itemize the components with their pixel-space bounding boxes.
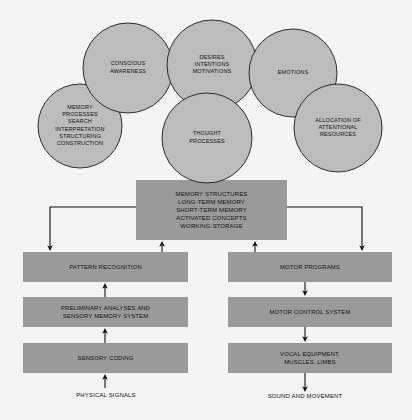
box-sensory-coding-line: SENSORY CODING [78,355,134,361]
box-memory-structures-line: WORKING STORAGE [180,223,242,229]
circle-allocation-of-attentional-resources-line: ALLOCATION OF [315,117,361,123]
caption-physical-signals: PHYSICAL SIGNALS [76,392,136,398]
box-memory-structures: MEMORY STRUCTURESLONG-TERM MEMORYSHORT-T… [136,180,287,240]
box-motor-programs: MOTOR PROGRAMS [228,252,392,282]
box-pattern-recognition: PATTERN RECOGNITION [23,252,188,282]
box-memory-structures-line: ACTIVATED CONCEPTS [176,215,246,221]
box-preliminary-analyses-line: SENSORY MEMORY SYSTEM [63,313,149,319]
box-motor-control-system: MOTOR CONTROL SYSTEM [228,297,392,327]
box-sensory-coding: SENSORY CODING [23,343,188,373]
circle-memory-processes-line: MEMORY [67,104,93,110]
box-pattern-recognition-label: PATTERN RECOGNITION [69,264,142,270]
circle-thought-processes-line: THOUGHT [193,131,222,137]
box-memory-structures-line: LONG-TERM MEMORY [178,199,245,205]
box-memory-structures-line: SHORT-TERM MEMORY [176,207,247,213]
circle-thought-processes: THOUGHTPROCESSES [162,93,252,183]
circle-memory-processes-line: SEARCH [68,119,92,125]
circle-desires-intentions-motivations-line: DESIRES [199,54,224,60]
box-pattern-recognition-line: PATTERN RECOGNITION [69,264,142,270]
box-sensory-coding-label: SENSORY CODING [78,355,134,361]
circle-conscious-awareness-line: CONSCIOUS [111,61,146,67]
circle-memory-processes-label: MEMORYPROCESSESSEARCHINTERPRETATIONSTRUC… [55,104,104,147]
box-preliminary-analyses-line: PRELIMINARY ANALYSES AND [61,305,150,311]
caption-sound-and-movement: SOUND AND MOVEMENT [268,393,343,399]
circle-emotions-label: EMOTIONS [278,69,309,75]
circle-emotions-line: EMOTIONS [278,69,309,75]
circle-memory-processes-line: INTERPRETATION [55,126,104,132]
box-memory-structures-line: MEMORY STRUCTURES [175,191,247,197]
cognitive-architecture-diagram: MEMORY STRUCTURESLONG-TERM MEMORYSHORT-T… [0,0,412,420]
box-motor-programs-label: MOTOR PROGRAMS [280,264,340,270]
circle-conscious-awareness-line: AWARENESS [110,68,146,74]
circle-memory-processes-line: CONSTRUCTION [57,141,103,147]
circle-desires-intentions-motivations-line: INTENTIONS [195,61,230,67]
box-preliminary-analyses: PRELIMINARY ANALYSES ANDSENSORY MEMORY S… [23,297,188,327]
box-vocal-equipment-line: VOCAL EQUIPMENT, [280,351,340,357]
circle-allocation-of-attentional-resources-line: ATTENTIONAL [318,124,357,130]
circle-thought-processes-line: PROCESSES [189,138,225,144]
box-motor-control-system-label: MOTOR CONTROL SYSTEM [270,309,351,315]
diagram-canvas: MEMORY STRUCTURESLONG-TERM MEMORYSHORT-T… [0,0,412,420]
circle-memory-processes-line: PROCESSES [62,112,98,118]
circle-allocation-of-attentional-resources: ALLOCATION OFATTENTIONALRESOURCES [294,84,382,172]
circle-memory-processes-line: STRUCTURING [59,133,101,139]
box-memory-structures-label: MEMORY STRUCTURESLONG-TERM MEMORYSHORT-T… [175,191,247,229]
circle-allocation-of-attentional-resources-label: ALLOCATION OFATTENTIONALRESOURCES [315,117,361,138]
circle-conscious-awareness-label: CONSCIOUSAWARENESS [110,61,146,74]
box-vocal-equipment-line: MUSCLES, LIMBS [284,359,336,365]
circle-conscious-awareness: CONSCIOUSAWARENESS [83,23,173,113]
circle-thought-processes-label: THOUGHTPROCESSES [189,131,225,144]
box-vocal-equipment: VOCAL EQUIPMENT,MUSCLES, LIMBS [228,343,392,373]
box-motor-programs-line: MOTOR PROGRAMS [280,264,340,270]
circle-allocation-of-attentional-resources-line: RESOURCES [320,132,356,138]
box-motor-control-system-line: MOTOR CONTROL SYSTEM [270,309,351,315]
circle-desires-intentions-motivations-line: MOTIVATIONS [193,69,232,75]
